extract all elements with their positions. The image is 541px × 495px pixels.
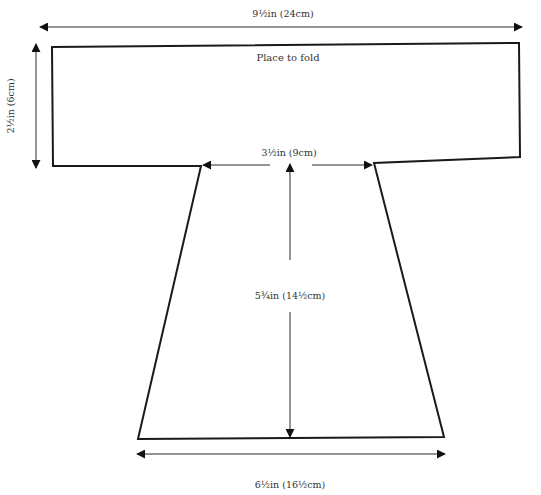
top-height-label: 2½in (6cm) <box>5 78 16 133</box>
neck-width-dimension: 3½in (9cm) <box>203 147 372 165</box>
body-length-dimension: 5¾in (14½cm) <box>255 164 325 437</box>
neck-width-label: 3½in (9cm) <box>261 147 316 158</box>
top-width-dimension: 9½in (24cm) <box>40 8 522 27</box>
top-width-label: 9½in (24cm) <box>252 8 313 19</box>
bottom-width-dimension: 6½in (16½cm) <box>137 454 445 490</box>
top-height-dimension: 2½in (6cm) <box>5 44 36 168</box>
pattern-diagram: 9½in (24cm) 2½in (6cm) Place to fold 3½i… <box>0 0 541 495</box>
bottom-width-label: 6½in (16½cm) <box>255 479 325 490</box>
fold-label: Place to fold <box>256 52 320 63</box>
body-length-label: 5¾in (14½cm) <box>255 290 325 301</box>
pattern-outline <box>52 43 520 439</box>
